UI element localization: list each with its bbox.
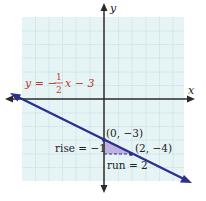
run-label: run = 2 [107,159,148,171]
point1-label: (0, −3) [106,127,143,139]
y-axis-label: y [109,2,117,15]
equation-rhs: x − 3 [65,77,94,90]
equation-numerator: 1 [56,72,62,82]
equation-denominator: 2 [56,85,62,95]
equation-lhs: y = − [24,77,57,90]
x-axis-left-arrow-icon [5,96,13,103]
rise-label: rise = −1 [55,142,106,154]
y-axis-up-arrow-icon [101,3,108,11]
y-axis-down-arrow-icon [101,185,108,193]
point-2-neg4 [129,152,133,156]
coordinate-plane: y x y = − 1 2 x − 3 (0, −3) (2, −4) rise… [0,0,206,201]
point2-label: (2, −4) [135,142,172,154]
x-axis-label: x [188,84,195,97]
